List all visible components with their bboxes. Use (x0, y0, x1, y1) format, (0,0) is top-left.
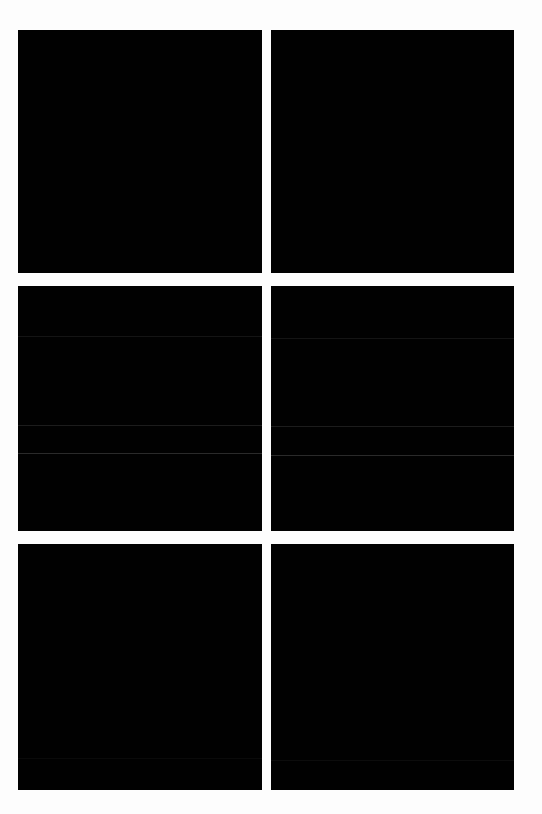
tile-caption (271, 544, 272, 545)
tile-caption (271, 30, 272, 31)
tile-caption (18, 286, 19, 287)
gallery-tile-4[interactable] (271, 286, 514, 531)
gallery-tile-5[interactable] (18, 544, 262, 790)
tile-artifact-line (18, 758, 262, 759)
tile-caption (18, 544, 19, 545)
tile-caption (271, 286, 272, 287)
tile-artifact-line (271, 455, 514, 456)
tile-artifact-line (18, 336, 262, 337)
tile-artifact-line (271, 338, 514, 339)
tile-caption (18, 30, 19, 31)
tile-artifact-line (271, 426, 514, 427)
gallery-tile-6[interactable] (271, 544, 514, 790)
tile-artifact-line (271, 760, 514, 761)
gallery-tile-3[interactable] (18, 286, 262, 531)
image-gallery-grid (18, 30, 514, 790)
gallery-tile-1[interactable] (18, 30, 262, 273)
gallery-tile-2[interactable] (271, 30, 514, 273)
tile-artifact-line (18, 425, 262, 426)
tile-artifact-line (18, 453, 262, 454)
